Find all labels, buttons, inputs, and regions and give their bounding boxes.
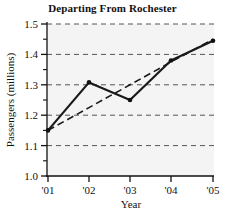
x-tick-label-03: '03 <box>124 184 137 196</box>
x-tick-label-04: '04 <box>165 184 178 196</box>
data-point-01 <box>46 128 51 133</box>
data-point-05 <box>211 38 216 43</box>
line-chart-plot: 1.5 1.4 1.3 1.2 1.1 1.0 '01 '02 '03 '04 … <box>0 0 225 212</box>
x-axis-ticks <box>48 176 213 182</box>
y-axis-tick-labels: 1.5 1.4 1.3 1.2 1.1 1.0 <box>24 18 38 182</box>
y-tick-label-1-4: 1.4 <box>24 48 38 60</box>
x-axis-label: Year <box>121 198 142 210</box>
x-tick-label-01: '01 <box>42 184 55 196</box>
y-tick-label-1-2: 1.2 <box>24 109 38 121</box>
y-axis-label: Passengers (millions) <box>4 52 17 147</box>
data-point-02 <box>87 80 92 85</box>
data-point-04 <box>169 58 174 63</box>
y-tick-label-1-5: 1.5 <box>24 18 38 30</box>
y-tick-label-1-0: 1.0 <box>24 170 38 182</box>
y-tick-label-1-3: 1.3 <box>24 79 38 91</box>
x-axis-tick-labels: '01 '02 '03 '04 '05 <box>42 184 220 196</box>
y-tick-label-1-1: 1.1 <box>24 140 38 152</box>
data-point-03 <box>128 98 133 103</box>
x-tick-label-05: '05 <box>207 184 220 196</box>
chart-figure: Departing From Rochester <box>0 0 225 212</box>
x-tick-label-02: '02 <box>83 184 96 196</box>
